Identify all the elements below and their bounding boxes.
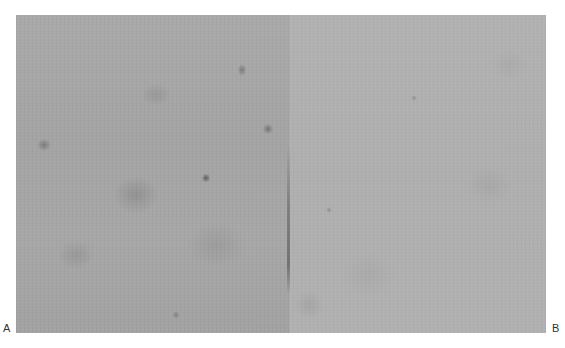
- panel-a-image: [16, 15, 289, 333]
- panel-label-a: A: [3, 323, 10, 334]
- image-texture: [289, 15, 546, 333]
- panel-seam: [287, 145, 290, 295]
- image-texture: [16, 15, 289, 333]
- figure: [16, 15, 546, 333]
- panel-label-b: B: [552, 323, 559, 334]
- panel-b-image: [289, 15, 546, 333]
